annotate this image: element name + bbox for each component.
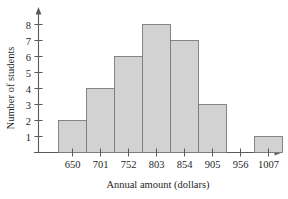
x-axis-title: Annual amount (dollars) bbox=[106, 179, 210, 191]
bar-905 bbox=[199, 105, 227, 153]
x-tick-label: 752 bbox=[121, 159, 137, 170]
bar-650 bbox=[59, 121, 87, 153]
histogram-canvas: 1 2 3 4 5 6 7 8 bbox=[0, 0, 288, 199]
x-axis-tick-labels: 650 701 752 803 854 905 956 1007 bbox=[65, 159, 279, 170]
y-axis-arrow-icon bbox=[36, 7, 42, 15]
bar-803 bbox=[143, 25, 171, 153]
x-tick-label: 701 bbox=[93, 159, 109, 170]
y-tick-label: 2 bbox=[26, 116, 31, 127]
y-tick-label: 8 bbox=[26, 20, 31, 31]
bar-854 bbox=[171, 41, 199, 153]
y-tick-label: 4 bbox=[26, 84, 32, 95]
y-tick-label: 1 bbox=[26, 132, 31, 143]
x-tick-label: 905 bbox=[205, 159, 221, 170]
y-axis-tick-labels: 1 2 3 4 5 6 7 8 bbox=[26, 20, 32, 143]
y-axis-title: Number of students bbox=[5, 47, 16, 130]
x-tick-label: 650 bbox=[65, 159, 81, 170]
histogram-figure: 1 2 3 4 5 6 7 8 bbox=[0, 0, 288, 199]
x-tick-label: 956 bbox=[233, 159, 249, 170]
bar-701 bbox=[87, 89, 115, 153]
y-tick-label: 3 bbox=[26, 100, 31, 111]
bar-752 bbox=[115, 57, 143, 153]
x-tick-label: 803 bbox=[149, 159, 165, 170]
bars-group bbox=[59, 25, 283, 153]
y-tick-label: 6 bbox=[26, 52, 31, 63]
y-tick-label: 5 bbox=[26, 68, 31, 79]
y-axis bbox=[36, 7, 42, 153]
x-tick-label: 854 bbox=[177, 159, 194, 170]
x-tick-label: 1007 bbox=[258, 159, 279, 170]
y-tick-label: 7 bbox=[26, 36, 31, 47]
